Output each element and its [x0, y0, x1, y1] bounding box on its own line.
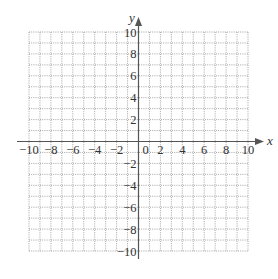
x-tick-label: 0 [143, 143, 149, 157]
x-tick-label: 8 [223, 143, 229, 157]
y-tick-label: 2 [130, 113, 136, 127]
y-tick-label: −8 [123, 223, 136, 237]
x-tick-label: 10 [242, 143, 255, 157]
y-tick-label: 4 [130, 91, 137, 105]
x-tick-labels: −10−8−6−4−20246810 [19, 143, 254, 157]
x-tick-label: −6 [66, 143, 79, 157]
y-tick-label: 10 [124, 26, 137, 40]
x-tick-label: −10 [19, 143, 39, 157]
x-axis-label: x [266, 133, 273, 148]
x-tick-label: 2 [157, 143, 163, 157]
y-tick-label: −10 [117, 245, 137, 259]
x-tick-label: 4 [179, 143, 186, 157]
x-axis-arrow-icon [255, 138, 264, 145]
y-tick-label: −4 [123, 179, 137, 193]
y-tick-label: 8 [130, 47, 136, 61]
y-tick-label: 6 [130, 69, 136, 83]
y-tick-label: −2 [123, 157, 136, 171]
y-axis-label: y [127, 10, 135, 25]
coordinate-plane: −10−8−6−4−20246810 108642−2−4−6−8−10 x y [0, 0, 278, 279]
y-tick-label: −6 [123, 201, 136, 215]
axes [17, 17, 264, 259]
x-tick-label: −8 [44, 143, 57, 157]
x-tick-label: 6 [201, 143, 207, 157]
x-tick-label: −4 [88, 143, 102, 157]
x-tick-label: −2 [110, 143, 123, 157]
